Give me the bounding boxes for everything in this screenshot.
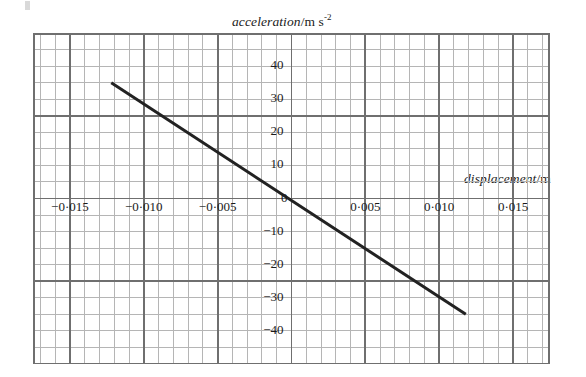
- y-tick-label: −40: [250, 322, 284, 338]
- y-tick-label: 20: [250, 123, 284, 139]
- y-tick-label: 30: [250, 90, 284, 106]
- y-tick-label: −20: [250, 256, 284, 272]
- y-tick-label: 10: [250, 156, 284, 172]
- y-axis-label: acceleration/m s-2: [232, 12, 332, 30]
- x-tick-label: −0·015: [38, 199, 102, 215]
- y-tick-label: −10: [250, 223, 284, 239]
- x-tick-label: 0·005: [333, 199, 397, 215]
- x-tick-label: 0·015: [481, 199, 545, 215]
- y-axis-label-exponent: -2: [324, 12, 332, 22]
- y-axis-label-unit: /m s: [301, 14, 324, 29]
- grid-and-data: [33, 33, 550, 364]
- x-tick-label: −0·005: [186, 199, 250, 215]
- x-tick-label-origin: 0: [270, 190, 288, 206]
- y-tick-label: −30: [250, 289, 284, 305]
- y-tick-label: 40: [250, 57, 284, 73]
- plot-area: [33, 33, 550, 364]
- chart-figure: acceleration/m s-2 displacement/m −0·015…: [0, 0, 586, 377]
- x-tick-label: 0·010: [407, 199, 471, 215]
- x-tick-label: −0·010: [112, 199, 176, 215]
- scan-artifact: [25, 1, 30, 10]
- y-axis-label-italic: acceleration: [232, 14, 301, 29]
